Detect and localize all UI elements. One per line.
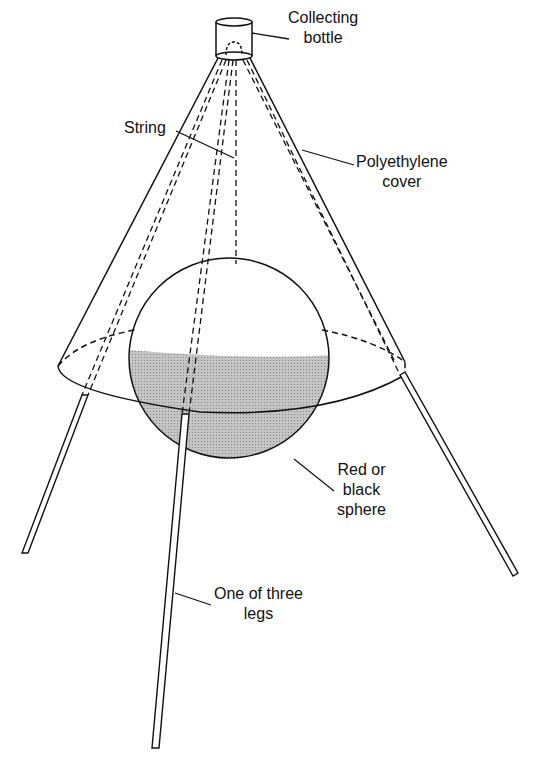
label-polyethylene-cover: Polyethylene cover (356, 152, 448, 192)
apparatus-drawing (0, 0, 541, 762)
label-sphere: Red or black sphere (337, 460, 386, 520)
label-line: bottle (288, 28, 358, 48)
leader-bottle (252, 33, 289, 39)
right-leg-hidden (243, 60, 400, 375)
label-string: String (124, 118, 166, 138)
leg-right (400, 372, 518, 576)
left-leg-hidden (82, 60, 226, 395)
label-line: legs (214, 604, 303, 624)
leg-front (152, 414, 189, 748)
leader-cover (302, 150, 354, 165)
label-collecting-bottle: Collecting bottle (288, 8, 358, 48)
sphere-shaded-lower (129, 258, 329, 458)
label-line: String (124, 118, 166, 138)
leader-sphere (294, 459, 334, 491)
leader-leg (175, 593, 211, 605)
label-leg: One of three legs (214, 584, 303, 624)
label-line: cover (356, 172, 448, 192)
label-line: black (337, 480, 386, 500)
label-line: sphere (337, 500, 386, 520)
leg-left (22, 395, 88, 553)
cover-right-edge (250, 58, 405, 362)
leader-string (176, 131, 234, 158)
label-line: Red or (337, 460, 386, 480)
label-line: Collecting (288, 8, 358, 28)
diagram-canvas: Collecting bottle String Polyethylene co… (0, 0, 541, 762)
label-line: Polyethylene (356, 152, 448, 172)
collecting-bottle (216, 18, 252, 60)
label-line: One of three (214, 584, 303, 604)
